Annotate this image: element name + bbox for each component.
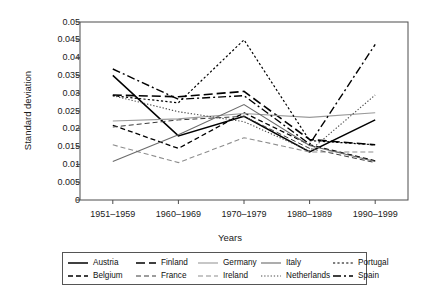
legend-row: BelgiumFranceIrelandNetherlandsSpain (67, 269, 362, 282)
legend-label: Germany (223, 258, 257, 268)
legend-label: Ireland (223, 271, 248, 281)
legend-item-france[interactable]: France (135, 271, 197, 281)
legend-label: Belgium (93, 271, 123, 281)
chart-figure: Standard deviation 00.0050.010.0150.020.… (0, 0, 430, 297)
legend-label: Spain (358, 271, 379, 281)
legend-item-portugal[interactable]: Portugal (332, 258, 389, 268)
chart-legend: AustriaFinlandGermanyItalyPortugalBelgiu… (62, 252, 367, 285)
legend-swatch-germany (197, 258, 219, 268)
legend-swatch-italy (260, 258, 282, 268)
legend-item-austria[interactable]: Austria (67, 258, 135, 268)
legend-swatch-spain (332, 271, 354, 281)
legend-swatch-belgium (67, 271, 89, 281)
legend-item-ireland[interactable]: Ireland (197, 271, 260, 281)
legend-label: Austria (93, 258, 118, 268)
legend-item-spain[interactable]: Spain (332, 271, 379, 281)
legend-label: Italy (286, 258, 301, 268)
legend-item-italy[interactable]: Italy (260, 258, 332, 268)
legend-swatch-netherlands (260, 271, 282, 281)
legend-swatch-ireland (197, 271, 219, 281)
legend-item-netherlands[interactable]: Netherlands (260, 271, 332, 281)
legend-label: Portugal (358, 258, 389, 268)
legend-item-belgium[interactable]: Belgium (67, 271, 135, 281)
x-axis-tick-label: 1990–1999 (335, 209, 415, 219)
legend-swatch-finland (135, 258, 157, 268)
legend-item-finland[interactable]: Finland (135, 258, 197, 268)
legend-swatch-austria (67, 258, 89, 268)
x-axis-title: Years (80, 232, 380, 243)
legend-label: France (161, 271, 186, 281)
legend-label: Finland (161, 258, 188, 268)
legend-swatch-france (135, 271, 157, 281)
legend-swatch-portugal (332, 258, 354, 268)
legend-item-germany[interactable]: Germany (197, 258, 260, 268)
legend-row: AustriaFinlandGermanyItalyPortugal (67, 256, 362, 269)
legend-label: Netherlands (286, 271, 330, 281)
